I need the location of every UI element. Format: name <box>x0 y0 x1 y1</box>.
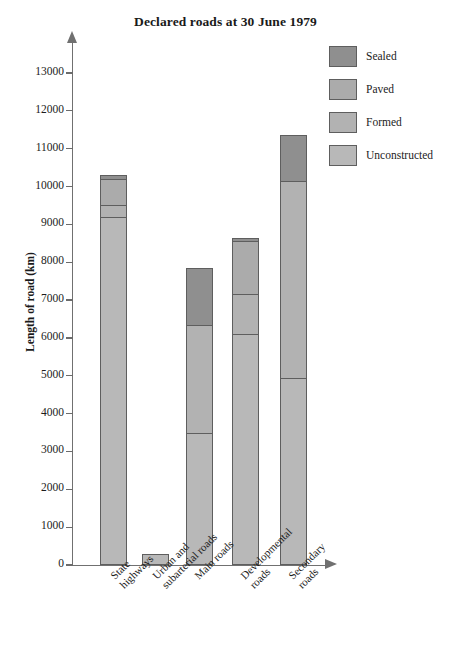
legend-swatch <box>329 145 357 166</box>
y-axis-tick-label: 2000 <box>4 481 64 493</box>
bar-segment-formed[interactable] <box>186 325 213 433</box>
y-axis-tick <box>66 375 73 376</box>
bar-segment-paved[interactable] <box>232 241 259 294</box>
y-axis-tick <box>66 527 73 528</box>
legend-item[interactable]: Unconstructed <box>329 141 449 169</box>
y-axis-line <box>72 40 73 566</box>
y-axis-tick-label: 4000 <box>4 406 64 418</box>
legend-label: Paved <box>366 83 394 95</box>
legend-item[interactable]: Formed <box>329 108 449 136</box>
legend-swatch <box>329 112 357 133</box>
bar-segment-formed[interactable] <box>280 181 307 378</box>
y-axis-tick-label: 9000 <box>4 216 64 228</box>
legend-swatch <box>329 46 357 67</box>
legend-swatch <box>329 79 357 100</box>
y-axis-tick-label: 5000 <box>4 368 64 380</box>
bar-segment-unconstructed[interactable] <box>100 217 127 565</box>
y-axis-tick-label: 3000 <box>4 443 64 455</box>
y-axis-tick <box>66 451 73 452</box>
bar-segment-sealed[interactable] <box>100 175 127 179</box>
y-axis-tick-label: 8000 <box>4 254 64 266</box>
y-axis-tick <box>66 148 73 149</box>
bar-segment-formed[interactable] <box>100 205 127 216</box>
y-axis-tick <box>66 72 73 73</box>
bar-segment-unconstructed[interactable] <box>232 334 259 565</box>
legend-label: Sealed <box>366 50 397 62</box>
bar-segment-paved[interactable] <box>100 179 127 205</box>
y-axis-tick <box>66 262 73 263</box>
y-axis-tick-label: 6000 <box>4 330 64 342</box>
y-axis-tick <box>66 413 73 414</box>
y-axis-tick-label: 10000 <box>4 179 64 191</box>
y-axis-tick <box>66 299 73 300</box>
chart-legend: SealedPavedFormedUnconstructed <box>329 42 449 174</box>
y-axis-tick-label: 7000 <box>4 292 64 304</box>
bar-segment-formed[interactable] <box>232 294 259 334</box>
y-axis-tick <box>66 110 73 111</box>
y-axis-tick-label: 0 <box>4 557 64 569</box>
y-axis-tick-label: 1000 <box>4 519 64 531</box>
chart-root: Declared roads at 30 June 1979 Length of… <box>0 0 451 661</box>
y-axis-tick-label: 11000 <box>4 141 64 153</box>
y-axis-tick <box>66 337 73 338</box>
bar-segment-sealed[interactable] <box>186 268 213 325</box>
y-axis-tick <box>66 564 73 565</box>
legend-item[interactable]: Sealed <box>329 42 449 70</box>
legend-label: Formed <box>366 116 402 128</box>
legend-label: Unconstructed <box>366 149 433 161</box>
y-axis-tick <box>66 186 73 187</box>
y-axis-tick-label: 13000 <box>4 65 64 77</box>
y-axis-tick-label: 12000 <box>4 103 64 115</box>
y-axis-tick <box>66 224 73 225</box>
bar-segment-sealed[interactable] <box>280 135 307 180</box>
bar-segment-sealed[interactable] <box>232 238 259 242</box>
y-axis-tick <box>66 489 73 490</box>
legend-item[interactable]: Paved <box>329 75 449 103</box>
